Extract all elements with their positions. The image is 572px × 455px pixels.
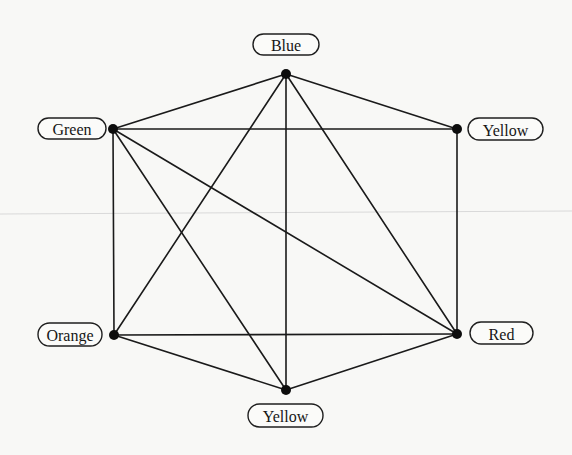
vertex-yellow-top <box>452 124 462 134</box>
vertex-label-yellow-top: Yellow <box>468 118 543 140</box>
vertex-orange <box>109 330 119 340</box>
vertex-label-yellow-bottom: Yellow <box>248 404 323 427</box>
graph-diagram: BlueGreenYellowOrangeRedYellow <box>0 0 572 455</box>
edge-orange-red <box>114 334 457 335</box>
edge-blue-yellow-top <box>286 74 457 129</box>
label-text-blue: Blue <box>271 37 301 54</box>
edge-blue-green <box>113 74 286 129</box>
vertex-label-orange: Orange <box>38 323 102 346</box>
label-text-green: Green <box>52 121 91 138</box>
edge-green-orange <box>113 129 114 335</box>
vertex-label-red: Red <box>470 322 533 344</box>
edge-green-yellow-bottom <box>113 129 286 390</box>
vertex-yellow-bottom <box>281 385 291 395</box>
edge-red-yellow-bottom <box>286 334 457 390</box>
label-text-orange: Orange <box>46 327 93 345</box>
edge-green-red <box>113 129 457 334</box>
edge-blue-orange <box>114 74 286 335</box>
edge-blue-red <box>286 74 457 334</box>
label-text-yellow-top: Yellow <box>483 122 529 139</box>
vertex-blue <box>281 69 291 79</box>
vertex-label-green: Green <box>38 118 106 139</box>
vertex-green <box>108 124 118 134</box>
vertex-label-blue: Blue <box>253 34 319 55</box>
label-text-yellow-bottom: Yellow <box>263 408 309 425</box>
edge-orange-yellow-bottom <box>114 335 286 390</box>
vertex-red <box>452 329 462 339</box>
edges-layer <box>113 74 457 390</box>
label-text-red: Red <box>489 326 515 343</box>
